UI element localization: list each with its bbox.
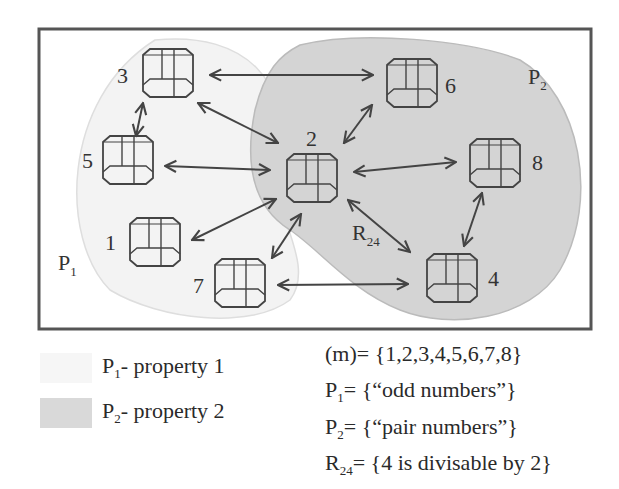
node-label-8: 8 <box>532 150 543 175</box>
legend: P1- property 1 P2- property 2 <box>40 345 225 435</box>
definition-r24: R24= {4 is divisable by 2} <box>325 449 552 485</box>
node-label-7: 7 <box>193 273 204 298</box>
definition-p2: P2= {“pair numbers”} <box>325 413 552 449</box>
legend-item-p2: P2- property 2 <box>40 390 225 435</box>
node-label-4: 4 <box>488 266 499 291</box>
definition-m: (m)= {1,2,3,4,5,6,7,8} <box>325 340 552 376</box>
definitions: (m)= {1,2,3,4,5,6,7,8} P1= {“odd numbers… <box>325 340 552 486</box>
node-label-1: 1 <box>105 230 116 255</box>
node-label-5: 5 <box>82 148 93 173</box>
set-relation-diagram: P1 P2 3 5 1 7 2 6 8 4 R24 <box>0 0 619 340</box>
node-label-2: 2 <box>306 126 317 151</box>
legend-item-p1: P1- property 1 <box>40 345 225 390</box>
node-label-6: 6 <box>445 73 456 98</box>
edge-7-4 <box>278 284 408 285</box>
legend-swatch-p1 <box>40 353 92 383</box>
definition-p1: P1= {“odd numbers”} <box>325 376 552 412</box>
legend-swatch-p2 <box>40 398 92 428</box>
node-label-3: 3 <box>117 63 128 88</box>
